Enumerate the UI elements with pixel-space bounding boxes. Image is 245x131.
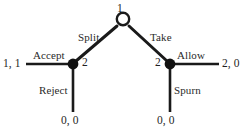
game-tree-edges bbox=[0, 0, 245, 131]
payoff-reject: 0, 0 bbox=[61, 115, 79, 127]
right-decision-node[interactable] bbox=[165, 59, 176, 70]
action-label-accept: Accept bbox=[33, 50, 65, 61]
root-player-label: 1 bbox=[117, 3, 123, 15]
left-decision-node[interactable] bbox=[68, 59, 79, 70]
action-label-split: Split bbox=[78, 32, 99, 43]
action-label-spurn: Spurn bbox=[174, 85, 201, 96]
right-node-player-label: 2 bbox=[155, 57, 161, 69]
payoff-allow: 2, 0 bbox=[222, 58, 240, 70]
action-label-reject: Reject bbox=[39, 85, 68, 96]
left-node-player-label: 2 bbox=[82, 57, 88, 69]
game-tree-figure: 1 2 2 Split Take Accept Reject Allow Spu… bbox=[0, 0, 245, 131]
action-label-take: Take bbox=[150, 32, 172, 43]
payoff-accept: 1, 1 bbox=[3, 58, 21, 70]
root-node[interactable] bbox=[117, 13, 129, 25]
payoff-spurn: 0, 0 bbox=[157, 115, 175, 127]
action-label-allow: Allow bbox=[177, 50, 205, 61]
